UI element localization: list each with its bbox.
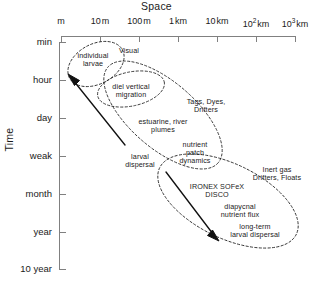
annotation-larval-line2: dispersal	[113, 161, 167, 169]
y-tick-label-10-year: 10 year	[0, 264, 52, 274]
annotation-individual-larvae-line2: larvae	[62, 60, 124, 68]
annotation-diel-line2: migration	[98, 91, 164, 99]
x-tick-label-1-unit: m	[102, 16, 110, 26]
x-tick-label-0-text: m	[57, 16, 65, 26]
x-axis	[61, 37, 296, 43]
annotation-diel-vertical-migration: diel vertical migration	[98, 83, 164, 99]
annotation-inert-gas-drifters-floats: Inert gas Drifters, Floats	[244, 166, 310, 182]
annotation-diapycnal-line2: nutrient flux	[206, 211, 274, 219]
annotation-visual: Visual	[109, 47, 149, 55]
y-tick-label-min: min	[0, 37, 52, 47]
x-tick-label-2-unit: m	[143, 16, 151, 26]
x-tick-label-6: 103 km	[272, 17, 313, 30]
x-tick-label-4-value: 10	[206, 16, 216, 26]
x-tick-label-5-unit: km	[257, 19, 269, 29]
y-tick-label-year: year	[0, 227, 52, 237]
x-tick-label-1-value: 10	[91, 16, 101, 26]
space-time-scale-diagram: Space Time m 10 m 100 m 1 km 10 km 102 k…	[0, 0, 313, 283]
annotation-longterm-line2: larval dispersal	[214, 231, 296, 239]
annotation-tags-dyes-drifters: Tags, Dyes, Drifters	[175, 98, 237, 114]
annotation-nutrient-line3: dynamics	[168, 157, 222, 165]
x-tick-label-5-value: 10	[243, 19, 253, 29]
y-tick-label-day: day	[0, 113, 52, 123]
annotation-long-term-larval-dispersal: long-term larval dispersal	[214, 223, 296, 239]
annotation-larval-dispersal: larval dispersal	[113, 153, 167, 169]
y-tick-label-month: month	[0, 189, 52, 199]
annotation-ironex-sofex-disco: IRONEX SOFeX DISCO	[178, 183, 256, 199]
annotation-ironex-line2: DISCO	[178, 191, 256, 199]
annotation-nutrient-patch-dynamics: nutrient patch dynamics	[168, 141, 222, 164]
y-axis	[60, 42, 67, 270]
x-tick-label-2-value: 100	[127, 16, 142, 26]
y-tick-label-hour: hour	[0, 75, 52, 85]
x-tick-label-4-unit: km	[216, 16, 228, 26]
annotation-estuarine-river-plumes: estuarine, river plumes	[125, 118, 201, 134]
arrow-upper-head	[68, 74, 80, 86]
annotation-estuarine-line2: plumes	[125, 126, 201, 134]
annotation-tags-line2: Drifters	[175, 106, 237, 114]
x-tick-label-3-unit: km	[175, 16, 187, 26]
annotation-inert-line2: Drifters, Floats	[244, 174, 310, 182]
y-tick-label-weak: weak	[0, 151, 52, 161]
x-tick-label-6-value: 10	[282, 19, 292, 29]
x-tick-label-6-unit: km	[296, 19, 308, 29]
annotation-diapycnal-nutrient-flux: diapycnal nutrient flux	[206, 203, 274, 219]
x-axis-title: Space	[0, 1, 313, 12]
